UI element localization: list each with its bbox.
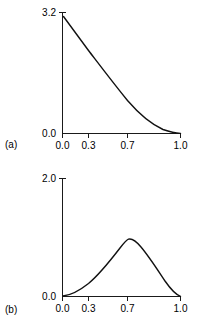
x-tick-label-3-a: 1.0	[174, 140, 188, 151]
y-axis-zero-label-b: 0.0	[42, 291, 56, 302]
curve-peak-b	[63, 239, 181, 296]
y-axis-zero-label-a: 0.0	[42, 128, 56, 139]
figure-container: 3.2 0.0 0.0 0.3 0.7 1.0 (a) 2.0	[0, 0, 199, 329]
chart-panel-b: 2.0 0.0 0.0 0.3 0.7 1.0 (b)	[0, 165, 199, 329]
x-tick-label-2-b: 0.7	[121, 303, 135, 314]
x-tick-label-0-a: 0.0	[56, 140, 70, 151]
x-tick-label-3-b: 1.0	[174, 303, 188, 314]
x-tick-label-0-b: 0.0	[56, 303, 70, 314]
x-tick-label-1-a: 0.3	[82, 140, 96, 151]
panel-caption-b: (b)	[5, 305, 17, 315]
x-tick-label-2-a: 0.7	[121, 140, 135, 151]
y-axis-max-label-b: 2.0	[42, 173, 56, 184]
chart-b-plot: 2.0 0.0 0.0 0.3 0.7 1.0	[0, 165, 199, 329]
x-tick-label-1-b: 0.3	[82, 303, 96, 314]
panel-caption-a: (a)	[5, 140, 17, 150]
chart-panel-a: 3.2 0.0 0.0 0.3 0.7 1.0 (a)	[0, 0, 199, 165]
curve-decay-a	[64, 17, 181, 134]
y-axis-max-label-a: 3.2	[42, 7, 56, 18]
chart-a-plot: 3.2 0.0 0.0 0.3 0.7 1.0	[0, 0, 199, 165]
